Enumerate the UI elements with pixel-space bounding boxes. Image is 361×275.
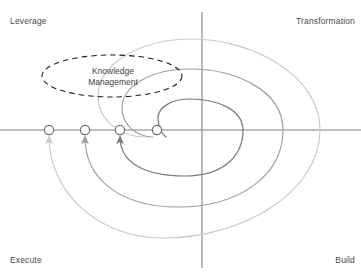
- spiral-inner-path: [120, 99, 243, 176]
- spiral-middle-path: [85, 69, 283, 207]
- marker-1[interactable]: [44, 125, 53, 134]
- marker-3[interactable]: [115, 125, 124, 134]
- quadrant-label-build: Build: [335, 256, 355, 265]
- axes-group: [0, 12, 361, 268]
- knowledge-management-line2: Management: [78, 77, 148, 88]
- spiral-middle: [81, 69, 283, 207]
- quadrant-label-leverage: Leverage: [10, 17, 47, 26]
- spiral-inner: [116, 99, 243, 176]
- spiral-quadrant-diagram: [0, 0, 361, 275]
- quadrant-label-transformation: Transformation: [296, 17, 355, 26]
- marker-4[interactable]: [152, 125, 161, 134]
- knowledge-management-line1: Knowledge: [78, 66, 148, 77]
- knowledge-management-label: Knowledge Management: [78, 66, 148, 87]
- quadrant-label-execute: Execute: [10, 256, 42, 265]
- marker-2[interactable]: [80, 125, 89, 134]
- diagram-canvas: Knowledge Management Leverage Transforma…: [0, 0, 361, 275]
